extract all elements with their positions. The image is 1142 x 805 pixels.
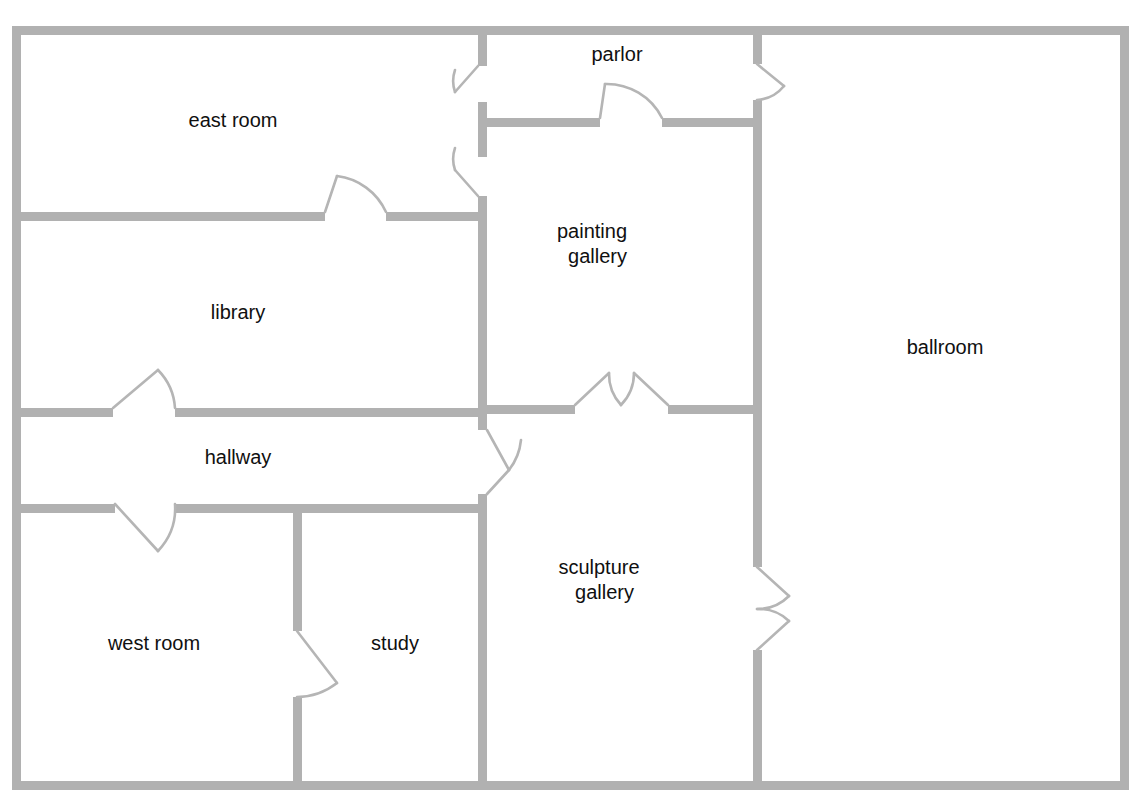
wall-east-room-south-right: [386, 212, 487, 221]
wall-hallway-south-left: [21, 504, 115, 513]
wall-spine-seg-b: [478, 102, 487, 157]
wall-library-south-left: [21, 408, 113, 417]
wall-exterior-west: [12, 26, 21, 790]
room-label-sculpture-gallery-line1: sculpture: [558, 556, 639, 578]
wall-ballroom-seg-c: [753, 650, 762, 790]
wall-exterior-east: [1120, 26, 1129, 790]
wall-spine-seg-e: [478, 494, 487, 790]
wall-exterior-south: [12, 781, 1129, 790]
wall-study-west-lower: [293, 697, 302, 790]
room-label-library: library: [211, 301, 265, 323]
wall-library-south-right: [175, 408, 487, 417]
room-label-painting-gallery-line2: gallery: [568, 245, 627, 267]
wall-hallway-south-right: [175, 504, 487, 513]
wall-parlor-south-left: [487, 118, 600, 127]
room-label-ballroom: ballroom: [907, 336, 984, 358]
wall-study-west-upper: [293, 504, 302, 631]
room-label-east-room: east room: [189, 109, 278, 131]
wall-parlor-south-right: [662, 118, 757, 127]
room-label-parlor: parlor: [591, 43, 642, 65]
wall-spine-seg-a: [478, 26, 487, 66]
floor-plan-canvas: east room parlor library painting galler…: [0, 0, 1142, 805]
wall-ballroom-seg-b: [753, 100, 762, 567]
room-label-study: study: [371, 632, 419, 654]
wall-gallery-divider-left: [487, 405, 575, 414]
room-label-hallway: hallway: [205, 446, 272, 468]
wall-east-room-south-left: [21, 212, 325, 221]
wall-spine-seg-c: [478, 196, 487, 408]
room-label-painting-gallery-line1: painting: [557, 220, 627, 242]
wall-exterior-north: [12, 26, 1129, 35]
room-label-west-room: west room: [107, 632, 200, 654]
wall-ballroom-seg-a: [753, 26, 762, 64]
room-label-sculpture-gallery-line2: gallery: [575, 581, 634, 603]
floor-plan-diagram: east room parlor library painting galler…: [0, 0, 1142, 805]
wall-gallery-divider-right: [668, 405, 757, 414]
